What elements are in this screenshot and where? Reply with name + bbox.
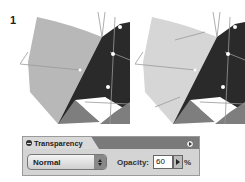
transparency-panel: Transparency Normal Opacity: 60 % — [22, 136, 200, 176]
panel-menu-button[interactable] — [186, 140, 194, 148]
artwork-after — [135, 12, 245, 124]
panel-title: Transparency — [34, 139, 83, 148]
percent-sign: % — [184, 158, 191, 167]
opacity-input[interactable]: 60 — [153, 155, 173, 169]
artwork-before — [20, 12, 130, 124]
select-arrows-icon — [94, 155, 106, 169]
opacity-label: Opacity: — [117, 158, 149, 167]
blend-mode-value: Normal — [33, 158, 61, 167]
tab-transparency[interactable]: Transparency — [23, 137, 99, 149]
opacity-slider-button[interactable] — [173, 155, 183, 169]
step-number: 1 — [10, 14, 16, 26]
blend-mode-select[interactable]: Normal — [27, 154, 107, 170]
collapse-icon[interactable] — [26, 140, 32, 146]
